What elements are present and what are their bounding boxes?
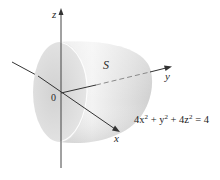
y-axis-label: y: [165, 71, 170, 82]
y-axis-outside: [150, 68, 166, 72]
equation-label: 4x2 + y2 + 4z2 = 4: [134, 114, 209, 126]
x-axis-back: [12, 62, 38, 76]
eq-term-4x: 4x: [134, 114, 145, 125]
z-axis-arrowhead-icon: [59, 8, 64, 15]
eq-rhs: = 4: [193, 114, 209, 125]
eq-term-4z: + 4z: [168, 114, 189, 125]
z-axis-label: z: [52, 9, 56, 20]
origin-label: 0: [51, 93, 56, 103]
x-axis-label: x: [114, 133, 119, 144]
surface-label: S: [103, 59, 109, 71]
diagram-canvas: [0, 0, 220, 180]
eq-term-y: + y: [148, 114, 164, 125]
